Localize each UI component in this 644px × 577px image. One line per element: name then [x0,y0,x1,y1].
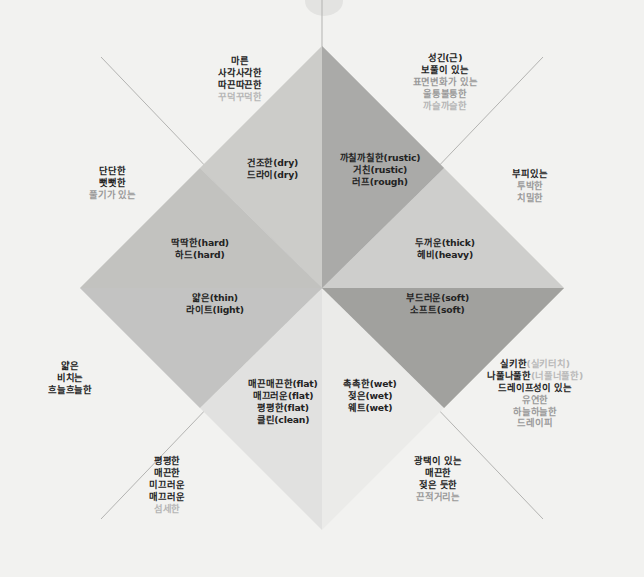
label-line: 부드러운(soft) [375,292,500,304]
label-thick-axis: 두꺼운(thick) 헤비(heavy) [385,237,505,261]
label-line: 흐늘흐늘한 [15,384,125,396]
label-bottom-left-inner: 평평한 매끈한 미끄러운 매끄러운 섬세한 [112,455,222,514]
label-left-lower-outer: 얇은 비치는 흐늘흐늘한 [15,360,125,396]
label-top-left-inner: 마른 사각사각한 따끈따끈한 꾸덕꾸덕한 [180,55,300,103]
label-line: 드라이(dry) [215,169,330,181]
label-line: 클린(clean) [222,414,344,426]
label-line: 보풀이 있는 [380,64,510,76]
label-bottom-right-inner: 광택이 있는 매끈한 젖은 듯한 끈적거리는 [378,455,498,503]
label-line: 하드(hard) [140,249,260,261]
label-line: 딱딱한(hard) [140,237,260,249]
label-sub: (너풀너풀한) [531,370,583,381]
label-line: 섬세한 [112,503,222,515]
label-line: 실키한(실키터치) [440,358,630,370]
label-left-outer: 단단한 뻣뻣한 풀기가 있는 [60,165,165,201]
label-line: 광택이 있는 [378,455,498,467]
label-main: 실키한 [500,358,526,369]
label-line: 단단한 [60,165,165,177]
diagram-artwork [0,0,644,577]
label-line: 건조한(dry) [215,157,330,169]
label-line: 유연한 [440,394,630,406]
label-line: 웨트(wet) [315,402,425,414]
label-top-right-inner: 성긴(근) 보풀이 있는 표면변화가 있는 울퉁불퉁한 까슬까슬한 [380,52,510,111]
label-sub: (실키터치) [527,358,570,369]
label-line: 뻣뻣한 [60,177,165,189]
label-line: 거친(rustic) [320,164,440,176]
label-line: 표면변화가 있는 [380,76,510,88]
label-line: 얇은(thin) [160,292,270,304]
label-line: 끈적거리는 [378,491,498,503]
label-hard-axis: 딱딱한(hard) 하드(hard) [140,237,260,261]
label-main: 나풀나풀한 [487,370,531,381]
label-line: 젖은 듯한 [378,479,498,491]
label-line: 풀기가 있는 [60,189,165,201]
label-line: 평평한 [112,455,222,467]
label-line: 러프(rough) [320,176,440,188]
label-line: 꾸덕꾸덕한 [180,91,300,103]
label-thin-axis: 얇은(thin) 라이트(light) [160,292,270,316]
label-line: 울퉁불퉁한 [380,88,510,100]
label-dry-axis: 건조한(dry) 드라이(dry) [215,157,330,181]
label-line: 두꺼운(thick) [385,237,505,249]
label-line: 헤비(heavy) [385,249,505,261]
label-right-lower-outer: 실키한(실키터치) 나풀나풀한(너풀너풀한) 드레이프성이 있는 유연한 하늘하… [440,358,630,429]
label-line: 사각사각한 [180,67,300,79]
diagram-canvas: 마른 사각사각한 따끈따끈한 꾸덕꾸덕한 성긴(근) 보풀이 있는 표면변화가 … [0,0,644,577]
label-line: 까칠까칠한(rustic) [320,152,440,164]
label-line: 매끈한 [112,467,222,479]
label-line: 라이트(light) [160,304,270,316]
label-line: 투박한 [480,180,580,192]
label-line: 젖은(wet) [315,390,425,402]
label-line: 따끈따끈한 [180,79,300,91]
label-wet-axis: 촉촉한(wet) 젖은(wet) 웨트(wet) [315,378,425,414]
label-soft-axis: 부드러운(soft) 소프트(soft) [375,292,500,316]
label-line: 드레이피 [440,417,630,429]
label-line: 매끄러운 [112,491,222,503]
label-line: 하늘하늘한 [440,406,630,418]
label-line: 매끈한 [378,467,498,479]
label-line: 드레이프성이 있는 [440,382,630,394]
label-right-outer: 부피있는 투박한 치밀한 [480,168,580,204]
label-line: 성긴(근) [380,52,510,64]
label-line: 나풀나풀한(너풀너풀한) [440,370,630,382]
label-line: 치밀한 [480,192,580,204]
label-line: 소프트(soft) [375,304,500,316]
label-line: 촉촉한(wet) [315,378,425,390]
label-line: 얇은 [15,360,125,372]
label-line: 비치는 [15,372,125,384]
label-line: 까슬까슬한 [380,100,510,112]
label-line: 미끄러운 [112,479,222,491]
label-line: 부피있는 [480,168,580,180]
label-line: 마른 [180,55,300,67]
label-rustic-axis: 까칠까칠한(rustic) 거친(rustic) 러프(rough) [320,152,440,188]
